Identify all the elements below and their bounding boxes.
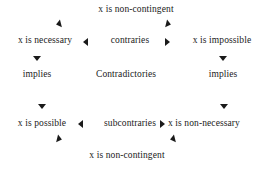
node-implies-right: implies [209, 69, 238, 80]
implies-right-down-arrow-icon [219, 56, 227, 61]
node-top-non-contingent: x is non-contingent [98, 4, 173, 15]
top-right-arrow-icon [165, 20, 172, 29]
node-contraries: contraries [111, 35, 149, 46]
node-subcontraries: subcontraries [104, 118, 156, 129]
node-contradictories: Contradictories [96, 69, 156, 80]
node-x-is-impossible: x is impossible [193, 35, 252, 46]
non-necessary-down-arrow-icon [220, 104, 228, 109]
contraries-left-arrow-icon [83, 38, 88, 46]
node-bottom-non-contingent: x is non-contingent [89, 150, 164, 161]
implies-left-down-arrow-icon [33, 56, 41, 61]
node-x-is-possible: x is possible [18, 118, 66, 129]
node-implies-left: implies [23, 69, 52, 80]
modal-square-diagram: x is non-contingent x is necessary contr… [0, 0, 272, 173]
contraries-right-arrow-icon [165, 38, 170, 46]
node-x-is-non-necessary: x is non-necessary [168, 118, 240, 129]
possible-down-arrow-icon [38, 104, 46, 109]
bottom-right-arrow-icon [169, 135, 176, 144]
top-left-arrow-icon [55, 20, 62, 29]
subcontraries-right-arrow-icon [160, 120, 165, 128]
bottom-left-arrow-icon [56, 135, 63, 144]
subcontraries-left-arrow-icon [78, 120, 83, 128]
node-x-is-necessary: x is necessary [18, 35, 72, 46]
